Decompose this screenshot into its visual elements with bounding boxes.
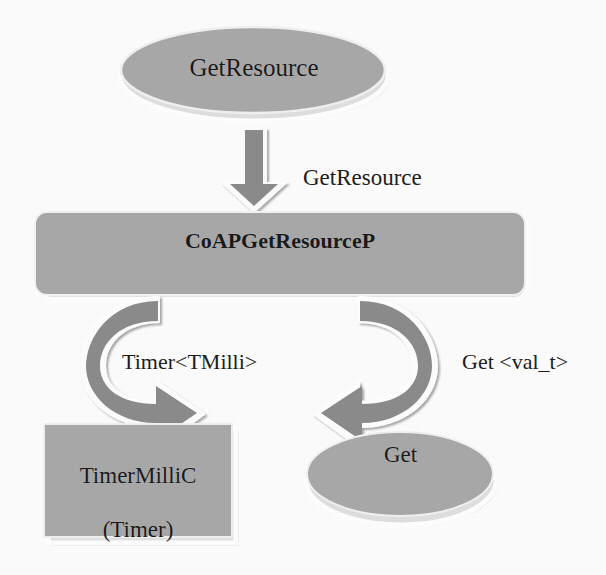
node-getresource-ellipse[interactable]	[120, 27, 390, 123]
timermillic-body	[44, 424, 232, 537]
arrow-get-curved	[312, 296, 438, 449]
arrow-getresource-down	[220, 128, 288, 213]
getresource-ellipse-body	[121, 27, 385, 113]
diagram-canvas: GetResource GetResource CoAPGetResourceP…	[0, 0, 606, 575]
get-ellipse-body	[307, 432, 493, 516]
node-timermillic-rect[interactable]	[44, 424, 239, 546]
node-coapgetresourcep-rect[interactable]	[35, 212, 530, 302]
diagram-shapes-layer	[0, 0, 606, 575]
coap-rect-body	[35, 212, 525, 295]
node-get-ellipse[interactable]	[306, 432, 498, 527]
